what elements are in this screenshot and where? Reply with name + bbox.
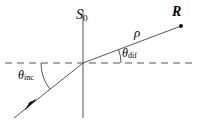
diffracted-angle-subscript: dif [128, 51, 137, 60]
surface-plane-subscript: 0 [83, 13, 88, 23]
surface-plane-label: S0 [76, 8, 88, 23]
diagram-canvas [0, 0, 199, 124]
diffracted-angle-label: θdif [122, 47, 137, 60]
surface-plane-symbol: S [76, 7, 83, 22]
incident-angle-subscript: inc [24, 73, 34, 82]
distance-rho-label: ρ [134, 26, 140, 39]
diffracted-angle-arc [119, 49, 122, 63]
incident-angle-label: θinc [18, 69, 34, 82]
ray-diagram-figure: S0 R ρ θdif θinc [0, 0, 199, 124]
incident-ray-arrowhead [26, 100, 37, 110]
observation-point-label: R [172, 5, 181, 19]
incident-angle-arc [41, 63, 50, 89]
observation-point-dot [179, 24, 183, 28]
